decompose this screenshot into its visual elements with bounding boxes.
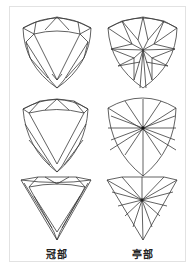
crown-diagram-row2	[23, 99, 88, 172]
crown-diagram-row1	[23, 17, 91, 88]
pavilion-label: 亭部	[123, 246, 163, 261]
pavilion-diagram-row2	[108, 98, 176, 176]
pavilion-diagram-row3	[107, 177, 177, 240]
pavilion-diagram-row1	[108, 17, 177, 88]
crown-label: 冠部	[37, 246, 77, 261]
gem-facet-diagrams	[0, 0, 192, 268]
crown-diagram-row3	[21, 177, 91, 240]
